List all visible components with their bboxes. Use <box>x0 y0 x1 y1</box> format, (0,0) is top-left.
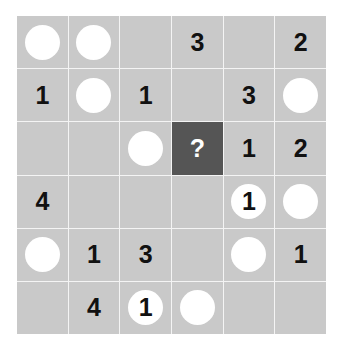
grid-cell[interactable]: 3 <box>224 69 275 121</box>
grid-cell[interactable] <box>224 229 275 281</box>
white-circle <box>128 131 163 166</box>
grid-cell[interactable] <box>17 229 68 281</box>
cell-number: 1 <box>35 83 49 108</box>
cell-number: 2 <box>294 136 308 161</box>
cell-number: 1 <box>294 242 308 267</box>
grid-cell[interactable]: 1 <box>17 69 68 121</box>
white-circle <box>76 25 111 60</box>
grid-cell[interactable]: 3 <box>172 16 223 68</box>
cell-number: 1 <box>242 136 256 161</box>
grid-cell[interactable] <box>69 69 120 121</box>
grid-cell[interactable]: 2 <box>275 122 326 174</box>
white-circle: 1 <box>231 184 266 219</box>
grid-cell[interactable]: 1 <box>224 122 275 174</box>
white-circle: 1 <box>128 290 163 325</box>
cell-number: 3 <box>242 83 256 108</box>
white-circle <box>76 78 111 113</box>
cell-number: 3 <box>190 30 204 55</box>
grid-cell[interactable] <box>275 69 326 121</box>
grid-cell[interactable] <box>275 176 326 228</box>
grid-cell[interactable] <box>69 122 120 174</box>
grid-cell[interactable]: 3 <box>120 229 171 281</box>
grid-cell[interactable] <box>172 69 223 121</box>
grid-cell[interactable] <box>120 176 171 228</box>
grid-cell[interactable]: 1 <box>69 229 120 281</box>
grid-cell[interactable] <box>275 282 326 334</box>
grid-cell[interactable] <box>17 122 68 174</box>
cell-number: 4 <box>35 189 49 214</box>
white-circle <box>283 184 318 219</box>
grid-cell[interactable]: 4 <box>17 176 68 228</box>
white-circle <box>283 78 318 113</box>
grid-cell[interactable] <box>172 282 223 334</box>
grid-cell[interactable] <box>17 282 68 334</box>
grid-cell[interactable]: 1 <box>275 229 326 281</box>
cell-number: 2 <box>294 30 308 55</box>
grid-cell[interactable]: 2 <box>275 16 326 68</box>
grid-cell[interactable] <box>17 16 68 68</box>
white-circle <box>25 237 60 272</box>
grid-cell[interactable]: 1 <box>120 69 171 121</box>
cell-number: 3 <box>139 242 153 267</box>
white-circle <box>25 25 60 60</box>
grid-cell[interactable]: 4 <box>69 282 120 334</box>
cell-number: 1 <box>139 83 153 108</box>
grid-cell[interactable] <box>172 176 223 228</box>
grid-cell[interactable] <box>69 16 120 68</box>
cell-number: 4 <box>87 295 101 320</box>
grid-cell[interactable] <box>120 16 171 68</box>
grid-cell[interactable] <box>120 122 171 174</box>
question-mark: ? <box>190 136 205 161</box>
cell-number: 1 <box>87 242 101 267</box>
grid-cell[interactable] <box>69 176 120 228</box>
target-cell[interactable]: ? <box>172 122 223 174</box>
grid-cell[interactable]: 1 <box>120 282 171 334</box>
grid-cell[interactable] <box>172 229 223 281</box>
grid-cell[interactable]: 1 <box>224 176 275 228</box>
white-circle <box>180 290 215 325</box>
grid-cell[interactable] <box>224 16 275 68</box>
white-circle <box>231 237 266 272</box>
puzzle-grid: 32113?124113141 <box>17 16 326 334</box>
grid-cell[interactable] <box>224 282 275 334</box>
